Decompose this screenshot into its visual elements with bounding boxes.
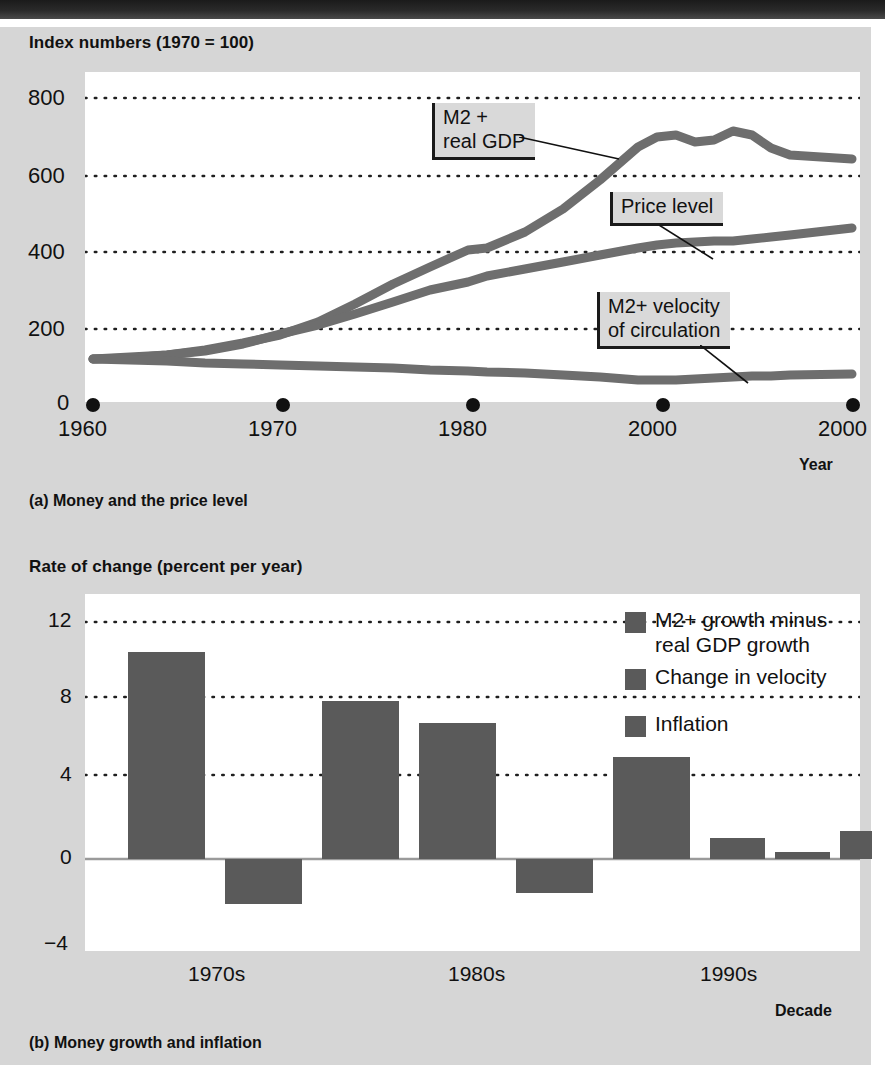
- legend-label: M2+ growth minus real GDP growth: [655, 608, 827, 657]
- page-header-bar: [0, 0, 885, 19]
- callout-m2-real-gdp-leader: [519, 137, 629, 162]
- bar-1980s-velocity: [516, 859, 593, 893]
- legend-swatch-icon: [625, 612, 646, 633]
- bar-1990s-m2growth: [710, 838, 765, 859]
- panel-b-caption: (b) Money growth and inflation: [29, 1034, 262, 1052]
- series-m2-real-gdp: [93, 131, 852, 359]
- callout-m2-velocity: M2+ velocity of circulation: [597, 292, 730, 349]
- panel-b-ytick-4: 4: [60, 762, 72, 786]
- panel-b-xaxis-name: Decade: [775, 1002, 832, 1020]
- legend-label: Change in velocity: [655, 665, 827, 690]
- panel-a-ytick-200: 200: [28, 316, 65, 342]
- panel-a-xtick-1960: 1960: [58, 416, 107, 442]
- callout-price-level-leader: [659, 225, 729, 265]
- bar-chart-legend: M2+ growth minus real GDP growth Change …: [625, 608, 875, 739]
- panel-a-ytick-400: 400: [28, 239, 65, 265]
- panel-a-xtick-dots: [85, 395, 865, 415]
- legend-item-m2-growth: M2+ growth minus real GDP growth: [625, 608, 875, 657]
- bar-1970s-m2growth: [128, 652, 205, 859]
- panel-a-axis-title: Index numbers (1970 = 100): [29, 33, 254, 53]
- bar-1990s-inflation-rect: [840, 831, 872, 859]
- panel-b-ytick-minus4: −4: [44, 931, 68, 955]
- legend-label: Inflation: [655, 712, 729, 737]
- bar-1970s-inflation: [322, 701, 399, 859]
- legend-item-inflation: Inflation: [625, 712, 875, 737]
- panel-b-xtick-1970s: 1970s: [188, 962, 245, 986]
- panel-a-ytick-800: 800: [28, 85, 65, 111]
- panel-b-xtick-1980s: 1980s: [448, 962, 505, 986]
- panel-a-ytick-600: 600: [28, 163, 65, 189]
- panel-a-xtick-1990: 2000: [628, 416, 677, 442]
- panel-a-caption: (a) Money and the price level: [29, 492, 248, 510]
- bar-1980s-m2growth: [419, 723, 496, 859]
- bar-1970s-velocity: [225, 859, 302, 904]
- legend-swatch-icon: [625, 669, 646, 690]
- panel-a-xtick-1970: 1970: [248, 416, 297, 442]
- callout-m2-velocity-leader: [700, 345, 760, 390]
- panel-a-xtick-2000: 2000: [818, 416, 867, 442]
- panel-b-ytick-12: 12: [48, 608, 71, 632]
- legend-item-velocity: Change in velocity: [625, 665, 875, 690]
- callout-price-level: Price level: [610, 192, 723, 226]
- bar-1980s-inflation: [613, 757, 690, 859]
- panel-b-xtick-1990s: 1990s: [700, 962, 757, 986]
- panel-b-ytick-0: 0: [60, 845, 72, 869]
- panel-b-ytick-8: 8: [60, 684, 72, 708]
- panel-b-axis-title: Rate of change (percent per year): [29, 557, 303, 577]
- panel-a-ytick-0: 0: [57, 390, 69, 416]
- bar-1990s-velocity: [775, 852, 830, 859]
- panel-a-xtick-1980: 1980: [438, 416, 487, 442]
- panel-a-xaxis-name: Year: [799, 456, 833, 474]
- legend-swatch-icon: [625, 716, 646, 737]
